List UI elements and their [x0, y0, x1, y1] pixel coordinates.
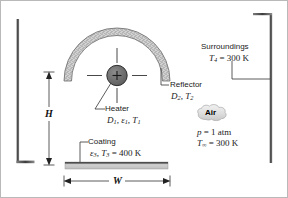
- coating-label: Coating: [88, 137, 116, 146]
- air-temperature: T∞ = 300 K: [197, 138, 238, 149]
- schematic-figure: Reflector D2, T2 Heater D1, ε1, T1 Coati…: [0, 0, 288, 198]
- heater-params: D1, ε1, T1: [107, 115, 141, 126]
- air-label: Air: [205, 108, 216, 117]
- heater-symbol: [87, 48, 147, 103]
- coating-params: ε3, T3 = 400 K: [90, 148, 141, 159]
- reflector-label: Reflector: [170, 80, 202, 89]
- left-wall: [17, 19, 35, 163]
- surroundings-label: Surroundings: [201, 42, 249, 51]
- right-wall: [253, 13, 272, 163]
- coating-leader-line: [80, 142, 88, 162]
- reflector-params: D2, T2: [171, 91, 193, 102]
- height-dimension-label: H: [45, 108, 53, 119]
- heater-label: Heater: [105, 104, 129, 113]
- surroundings-params: T4 = 300 K: [209, 53, 249, 64]
- schematic-drawing: [1, 1, 288, 198]
- width-dimension-label: W: [113, 175, 122, 186]
- air-pressure: p = 1 atm: [197, 127, 231, 138]
- coating-plate: [65, 162, 168, 169]
